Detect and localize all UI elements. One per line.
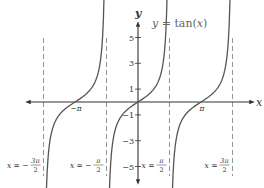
svg-text:3π: 3π: [31, 157, 40, 165]
x-axis-label: x: [256, 96, 263, 109]
svg-text:2: 2: [33, 166, 37, 174]
axes: [28, 24, 252, 182]
asymptote-label: π2x =: [142, 157, 167, 174]
svg-text:π: π: [95, 157, 101, 165]
asymptote-label: π2x = −: [70, 157, 104, 174]
x-tick-label: π: [199, 104, 206, 113]
svg-text:2: 2: [222, 166, 226, 174]
svg-text:x =: x =: [205, 161, 218, 170]
svg-text:x = −: x = −: [7, 161, 29, 170]
svg-text:3π: 3π: [220, 157, 229, 165]
x-tick-label: −π: [70, 104, 82, 113]
y-tick-label: −3: [122, 137, 134, 146]
y-tick-label: 1: [129, 85, 134, 94]
y-tick-label: 5: [129, 34, 134, 43]
labels: 531−1−3−5−ππxyy = tan(x)3π2x = −π2x = −π…: [7, 7, 263, 174]
y-tick-label: −1: [122, 111, 134, 120]
y-axis-label: y: [134, 7, 143, 20]
plot-area: 531−1−3−5−ππxyy = tan(x)3π2x = −π2x = −π…: [0, 0, 264, 188]
y-tick-label: −5: [122, 163, 134, 172]
svg-text:2: 2: [96, 166, 100, 174]
svg-text:2: 2: [159, 166, 163, 174]
svg-text:π: π: [158, 157, 164, 165]
tangent-chart: 531−1−3−5−ππxyy = tan(x)3π2x = −π2x = −π…: [0, 0, 264, 188]
y-tick-label: 3: [129, 59, 134, 68]
svg-text:x = −: x = −: [70, 161, 92, 170]
svg-text:x =: x =: [142, 161, 155, 170]
asymptote-label: 3π2x =: [205, 157, 230, 174]
chart-title: y = tan(x): [151, 17, 207, 30]
asymptote-label: 3π2x = −: [7, 157, 41, 174]
